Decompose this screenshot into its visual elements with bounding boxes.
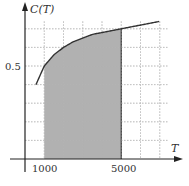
x-axis-arrow-icon (174, 156, 183, 162)
x-tick-1000: 1000 (32, 163, 57, 174)
y-tick-0-5: 0.5 (5, 61, 21, 72)
y-axis-arrow-icon (22, 2, 28, 11)
y-axis (22, 2, 28, 172)
x-axis-label: T (171, 142, 180, 155)
area-chart: C(T) T 1000 5000 0.5 (0, 0, 189, 186)
x-tick-5000: 5000 (111, 163, 136, 174)
y-axis-label: C(T) (30, 3, 54, 16)
